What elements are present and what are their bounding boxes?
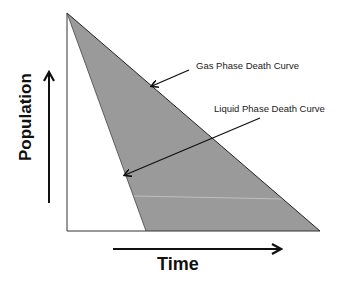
gas-phase-label: Gas Phase Death Curve (196, 60, 299, 71)
liquid-phase-label: Liquid Phase Death Curve (214, 103, 325, 114)
time-axis-label: Time (157, 254, 199, 274)
death-curve-diagram: Gas Phase Death Curve Liquid Phase Death… (0, 0, 341, 285)
gas-curve-pointer-arrow (152, 70, 189, 86)
population-axis-label: Population (16, 73, 35, 161)
